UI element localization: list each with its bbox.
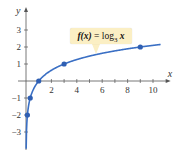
x-tick-label: 4 [75, 85, 80, 95]
x-tick-label: 10 [149, 85, 159, 95]
y-tick-label: 2 [17, 42, 22, 52]
function-eq: = log [92, 31, 114, 41]
x-axis-arrow-icon [166, 79, 171, 83]
data-point [138, 44, 143, 49]
x-axis-label: x [167, 68, 173, 79]
function-arg: x [117, 31, 124, 41]
y-tick-label: 3 [17, 25, 22, 35]
y-tick-label: 1 [17, 59, 22, 69]
data-point [25, 112, 30, 117]
log-chart: 246810−3−2−1123xy [0, 0, 180, 162]
y-axis-arrow-icon [24, 7, 28, 12]
y-tick-label: −2 [11, 110, 21, 120]
data-point [36, 78, 41, 83]
data-point [28, 95, 33, 100]
axes: 246810−3−2−1123xy [11, 5, 172, 150]
data-point [62, 61, 67, 66]
y-tick-label: −1 [11, 93, 21, 103]
x-tick-label: 2 [49, 85, 54, 95]
y-tick-label: −3 [11, 127, 21, 137]
x-tick-label: 6 [100, 85, 105, 95]
x-tick-label: 8 [125, 85, 130, 95]
function-label: f(x) = log3 x [70, 28, 132, 44]
function-lhs: f(x) [77, 31, 91, 41]
y-axis-label: y [15, 5, 21, 16]
curve [26, 44, 160, 149]
